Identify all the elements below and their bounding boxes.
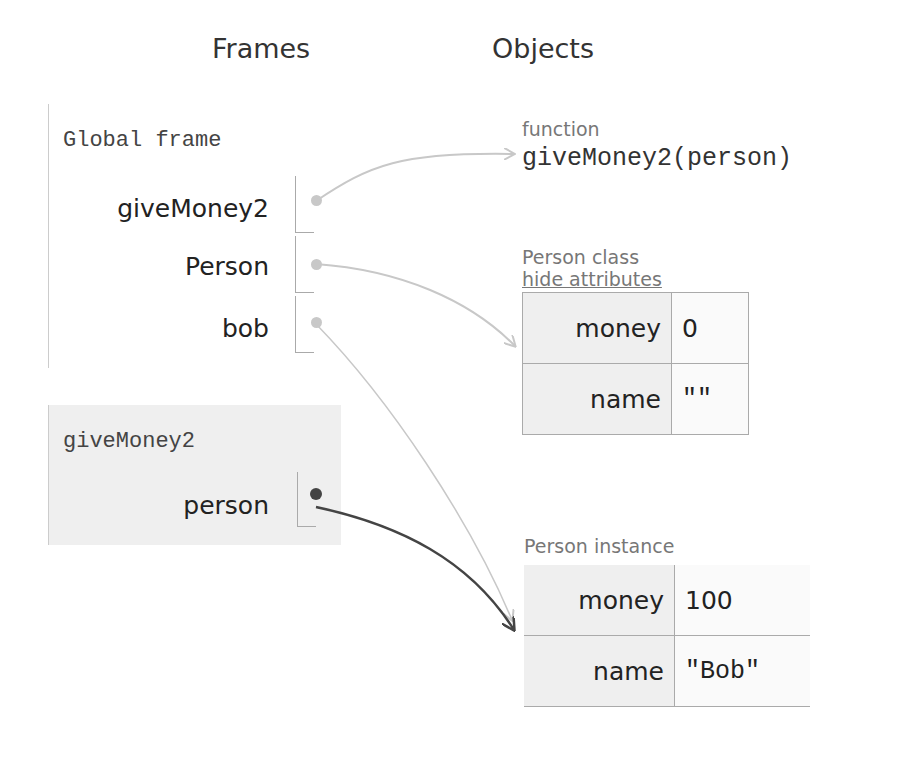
arrow-bob-to-instance xyxy=(316,324,512,620)
arrow-givemoney2-to-function xyxy=(316,154,514,201)
arrow-person-to-class xyxy=(316,264,515,346)
arrow-person-param-to-instance xyxy=(316,507,514,630)
pointer-arrows xyxy=(0,0,914,783)
